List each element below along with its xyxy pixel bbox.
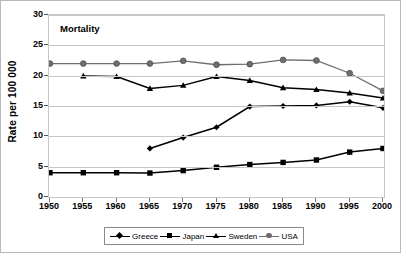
- x-axis-tick-mark: [282, 198, 283, 202]
- data-point: [247, 61, 253, 67]
- chart-title: Mortality: [60, 23, 100, 34]
- x-axis-tick-mark: [216, 198, 217, 202]
- x-axis-tick-mark: [249, 198, 250, 202]
- legend-marker-triangle-icon: [206, 232, 226, 241]
- y-axis-tick-label: 0: [15, 191, 43, 201]
- data-point: [214, 62, 220, 68]
- legend-marker-circle-icon: [259, 232, 279, 241]
- data-point: [49, 170, 53, 175]
- x-axis-tick-mark: [149, 198, 150, 202]
- x-axis-tick-mark: [382, 198, 383, 202]
- series-sweden: [80, 73, 384, 101]
- series-japan: [49, 146, 384, 176]
- data-point: [314, 58, 320, 64]
- grid-line: [49, 167, 384, 168]
- y-axis-tick-label: 5: [15, 161, 43, 171]
- data-point: [147, 61, 153, 67]
- plot-area: [48, 14, 385, 198]
- data-point: [49, 61, 53, 67]
- data-point: [114, 170, 119, 175]
- grid-line: [49, 136, 384, 137]
- legend-label: Sweden: [228, 232, 257, 241]
- legend-label: Japan: [182, 232, 204, 241]
- grid-line: [49, 76, 384, 77]
- x-axis-tick-mark: [49, 198, 50, 202]
- data-point: [347, 149, 352, 154]
- data-point: [81, 170, 86, 175]
- data-point: [280, 57, 286, 63]
- legend-marker-diamond-icon: [110, 232, 130, 241]
- legend-item-greece[interactable]: Greece: [110, 232, 158, 241]
- x-axis-tick-mark: [315, 198, 316, 202]
- legend-label: Greece: [132, 232, 158, 241]
- data-point: [380, 88, 384, 94]
- y-axis-tick-label: 20: [15, 70, 43, 80]
- legend-item-usa[interactable]: USA: [259, 232, 297, 241]
- y-axis-tick-label: 30: [15, 9, 43, 19]
- grid-line: [49, 15, 384, 16]
- y-axis-tick-label: 25: [15, 39, 43, 49]
- grid-line: [49, 45, 384, 46]
- legend-item-japan[interactable]: Japan: [160, 232, 204, 241]
- legend-label: USA: [281, 232, 297, 241]
- chart-figure: Rate per 100 000 051015202530 1950195519…: [0, 0, 401, 253]
- legend-marker-square-icon: [160, 232, 180, 241]
- x-axis-tick-mark: [182, 198, 183, 202]
- data-point: [80, 61, 86, 67]
- x-axis-tick-mark: [349, 198, 350, 202]
- chart-legend: GreeceJapanSwedenUSA: [104, 227, 304, 245]
- data-point: [147, 145, 153, 151]
- data-point: [380, 146, 384, 151]
- data-point: [181, 168, 186, 173]
- legend-item-sweden[interactable]: Sweden: [206, 232, 257, 241]
- data-point: [114, 61, 120, 67]
- x-axis-tick-mark: [82, 198, 83, 202]
- grid-line: [49, 106, 384, 107]
- data-point: [147, 170, 152, 175]
- y-axis-tick-label: 10: [15, 130, 43, 140]
- x-axis-tick-label: 2000: [362, 201, 401, 211]
- series-line: [150, 102, 383, 149]
- data-point: [180, 58, 186, 64]
- x-axis-tick-mark: [116, 198, 117, 202]
- data-point: [280, 160, 285, 165]
- data-point: [314, 157, 319, 162]
- y-axis-tick-label: 15: [15, 100, 43, 110]
- series-line: [83, 76, 383, 98]
- data-point: [347, 99, 353, 105]
